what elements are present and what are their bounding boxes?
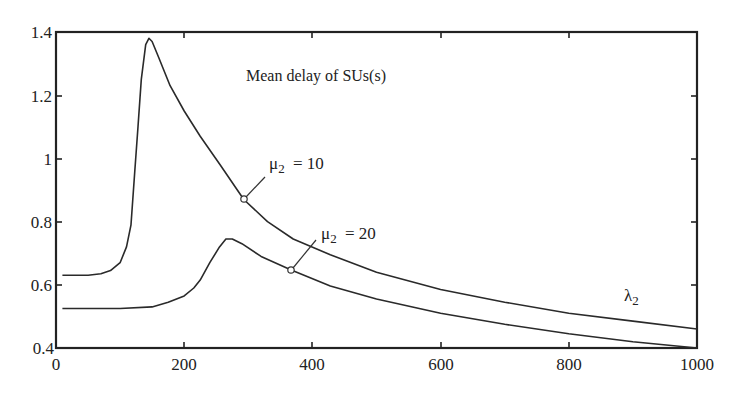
y-tick-label: 1 [44, 150, 53, 169]
x-axis-label-lambda2: λ2 [624, 286, 639, 308]
lambda-subscript: 2 [632, 293, 639, 308]
mu-subscript: 2 [278, 161, 285, 176]
mu-symbol: μ [269, 154, 278, 173]
x-tick-labels: 0 200 400 600 800 1000 [52, 355, 714, 374]
y-tick-label: 0.6 [31, 276, 52, 295]
mu-value: = 10 [289, 154, 324, 173]
y-tick-label: 1.2 [31, 87, 52, 106]
y-tick-label: 0.4 [33, 339, 55, 358]
y-ticks [56, 96, 697, 285]
mu-symbol: μ [321, 224, 330, 243]
chart: 0 200 400 600 800 1000 0.4 0.6 0.8 1 1.2… [0, 0, 742, 397]
x-tick-label: 1000 [680, 355, 714, 374]
x-tick-label: 200 [171, 355, 197, 374]
mu-subscript: 2 [330, 231, 337, 246]
label-mu2-10: μ2 = 10 [269, 154, 324, 176]
mu-value: = 20 [341, 224, 376, 243]
x-tick-label: 800 [556, 355, 582, 374]
series-line-mu2-20 [62, 239, 697, 348]
x-tick-label: 600 [428, 355, 454, 374]
label-mu2-20: μ2 = 20 [321, 224, 376, 246]
x-tick-label: 400 [299, 355, 325, 374]
chart-title-annotation: Mean delay of SUs(s) [246, 67, 386, 85]
leader-line-mu2-10 [246, 177, 265, 197]
y-tick-labels: 0.4 0.6 0.8 1 1.2 1.4 [31, 23, 55, 358]
y-tick-label: 1.4 [31, 23, 53, 42]
y-tick-label: 0.8 [31, 213, 52, 232]
